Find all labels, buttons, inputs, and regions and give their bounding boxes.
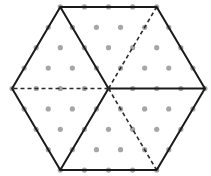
lattice-dot bbox=[94, 25, 99, 30]
lattice-dot bbox=[46, 66, 51, 71]
lattice-dot bbox=[106, 127, 111, 132]
lattice-dot bbox=[58, 127, 63, 132]
lattice-dot bbox=[154, 45, 159, 50]
lattice-dot bbox=[154, 127, 159, 132]
hexagon-diagram bbox=[0, 0, 211, 176]
lattice-dot bbox=[142, 66, 147, 71]
lattice-dot bbox=[118, 147, 123, 152]
lattice-dot bbox=[94, 147, 99, 152]
segment-center-to-top-left bbox=[60, 7, 108, 89]
lattice-dot bbox=[166, 66, 171, 71]
lattice-dot bbox=[118, 25, 123, 30]
lattice-dot bbox=[46, 106, 51, 111]
lattice-dot bbox=[106, 45, 111, 50]
lattice-dot bbox=[58, 45, 63, 50]
lattice-dot bbox=[70, 106, 75, 111]
lattice-dot bbox=[70, 66, 75, 71]
lattice-dot bbox=[166, 106, 171, 111]
lattice-dot bbox=[142, 106, 147, 111]
interior-segments bbox=[12, 7, 205, 170]
segment-center-to-bottom-left bbox=[60, 89, 108, 171]
